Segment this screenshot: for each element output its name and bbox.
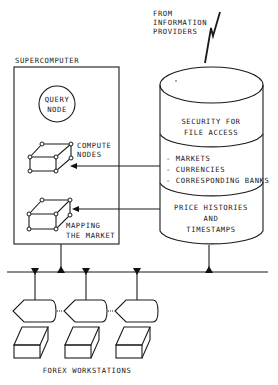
svg-text:NODES: NODES (77, 150, 102, 159)
price-history-section: PRICE HISTORIES AND TIMESTAMPS (174, 203, 248, 234)
svg-text:SECURITY FOR: SECURITY FOR (181, 117, 240, 126)
workstation-link-1 (31, 268, 39, 300)
compute-nodes-label: COMPUTE NODES (77, 141, 112, 159)
workstation-link-2 (82, 268, 90, 300)
svg-text:COMPUTE: COMPUTE (77, 141, 112, 150)
svg-text:QUERY: QUERY (45, 95, 70, 104)
svg-text:TIMESTAMPS: TIMESTAMPS (186, 225, 235, 234)
up-arrow-icon (57, 266, 65, 273)
supercomputer-label: SUPERCOMPUTER (15, 56, 79, 65)
keyboard-icon (116, 327, 150, 358)
keyboard-icon (14, 327, 48, 358)
svg-text:- MARKETS: - MARKETS (166, 154, 210, 163)
svg-text:- CORRESPONDING BANKS: - CORRESPONDING BANKS (166, 176, 269, 185)
compute-nodes-cube-icon (28, 142, 73, 173)
reference-data-section: - MARKETS - CURRENCIES - CORRESPONDING B… (166, 154, 269, 185)
keyboard-icon (65, 327, 99, 358)
security-section: SECURITY FOR FILE ACCESS (181, 117, 240, 137)
svg-text:FILE ACCESS: FILE ACCESS (184, 128, 238, 137)
arrow-db-to-mapping (72, 206, 160, 212)
svg-text:NODE: NODE (47, 105, 67, 114)
svg-text:THE MARKET: THE MARKET (66, 231, 115, 240)
arrow-db-to-compute (70, 163, 160, 169)
svg-text:FROM: FROM (153, 9, 173, 18)
mapping-market-label: MAPPING THE MARKET (66, 221, 115, 240)
display-icon (115, 300, 158, 322)
svg-text:AND: AND (204, 214, 219, 223)
information-providers-label: FROM INFORMATION PROVIDERS (153, 9, 207, 36)
svg-text:- CURRENCIES: - CURRENCIES (166, 165, 225, 174)
svg-text:PRICE HISTORIES: PRICE HISTORIES (174, 203, 248, 212)
workstation-link-3 (133, 268, 141, 300)
lightning-link-icon (205, 12, 220, 63)
up-arrow-icon (205, 266, 213, 273)
forex-workstations-label: FOREX WORKSTATIONS (43, 366, 132, 375)
svg-text:PROVIDERS: PROVIDERS (153, 27, 197, 36)
svg-text:MAPPING: MAPPING (66, 221, 101, 230)
display-icon (13, 300, 56, 322)
query-node: QUERY NODE (39, 86, 75, 122)
svg-text:INFORMATION: INFORMATION (153, 18, 207, 27)
forex-system-diagram: FROM INFORMATION PROVIDERS SUPERCOMPUTER… (0, 0, 278, 385)
display-icon (64, 300, 107, 322)
